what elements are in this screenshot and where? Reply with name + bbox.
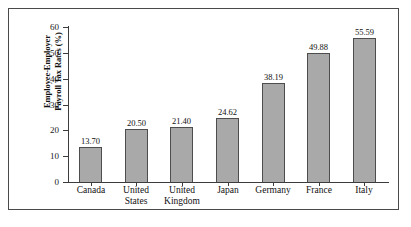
category-label-line-1: United [123,185,149,195]
bar-value-label: 38.19 [248,72,300,82]
bar[interactable] [79,147,102,182]
category-label-line-1: Canada [77,185,106,195]
bar-group[interactable]: 20.50 [125,27,148,182]
y-axis-tick-label: 20 [0,125,59,135]
y-axis-tick-label: 30 [0,100,59,110]
bar-group[interactable]: 55.59 [353,27,376,182]
bar-value-label: 55.59 [339,27,391,37]
chart-frame: Employee-Employer Payroll Tax Rates (%) … [8,8,399,210]
bar-group[interactable]: 21.40 [170,27,193,182]
bar[interactable] [170,127,193,182]
bar-group[interactable]: 49.88 [307,27,330,182]
bar-value-label: 21.40 [156,116,208,126]
category-label-line-1: Japan [217,185,239,195]
bar-value-label: 13.70 [65,136,117,146]
bar[interactable] [216,118,239,182]
category-label-line-1: United [169,185,195,195]
category-label-line-2: Kingdom [150,196,214,207]
bar-group[interactable]: 24.62 [216,27,239,182]
bar-value-label: 49.88 [293,42,345,52]
bar[interactable] [262,83,285,182]
y-axis-tick-label: 0 [0,177,59,187]
bar-group[interactable]: 13.70 [79,27,102,182]
y-axis-tick-label: 40 [0,74,59,84]
y-axis-tick-label: 50 [0,48,59,58]
y-axis-tick [63,182,69,183]
figure: Employee-Employer Payroll Tax Rates (%) … [0,0,411,227]
bar[interactable] [125,129,148,182]
y-axis-tick-label: 60 [0,22,59,32]
x-axis-category-label: Italy [332,185,396,196]
category-label-line-1: Germany [255,185,290,195]
y-axis-tick-label: 10 [0,151,59,161]
bar[interactable] [307,53,330,182]
category-label-line-1: France [306,185,332,195]
bar-value-label: 24.62 [202,107,254,117]
plot-area: 13.7020.5021.4024.6238.1949.8855.59 [68,27,387,182]
category-label-line-1: Italy [355,185,372,195]
bar-group[interactable]: 38.19 [262,27,285,182]
bar[interactable] [353,38,376,182]
